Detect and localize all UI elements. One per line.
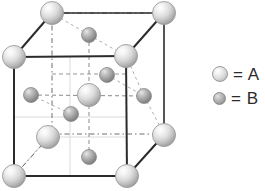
- atom-a: [153, 124, 176, 147]
- atom-b: [82, 28, 97, 43]
- legend-row-b: = B: [212, 86, 265, 110]
- atom-b: [137, 89, 152, 104]
- atom-a: [153, 2, 176, 25]
- atom-b: [100, 68, 115, 83]
- atom-a: [116, 165, 139, 188]
- atom-a: [115, 45, 138, 68]
- atom-b: [64, 107, 79, 122]
- atom-a: [78, 84, 101, 107]
- small-sphere-icon: [213, 92, 226, 105]
- atom-a: [3, 46, 26, 69]
- unit-cell-figure: = A = B: [0, 0, 265, 191]
- atom-a: [3, 165, 26, 188]
- atom-b: [24, 88, 39, 103]
- atom-a: [37, 126, 60, 149]
- large-sphere-icon: [212, 66, 228, 82]
- legend: = A = B: [212, 62, 265, 118]
- legend-label-b: = B: [231, 90, 259, 107]
- atom-b: [82, 150, 97, 165]
- legend-label-a: = A: [233, 66, 260, 83]
- atom-a: [41, 2, 64, 25]
- legend-row-a: = A: [212, 62, 265, 86]
